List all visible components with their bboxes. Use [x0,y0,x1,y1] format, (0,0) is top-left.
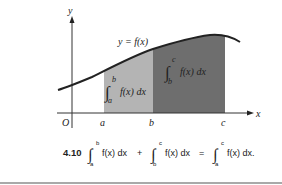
caption-term2-upper: c [159,140,162,146]
caption-term1-integrand: f(x) dx [102,148,128,158]
caption-plus: + [137,148,142,158]
tick-label-b: b [149,117,154,128]
tick-label-a: a [100,117,105,128]
caption-term3-lower: a [215,161,219,167]
x-axis-label: x [255,108,261,119]
curve-label: y = f(x) [117,36,149,48]
y-axis-label: y [67,5,73,16]
integrand-a-to-b: f(x) dx [120,86,146,98]
caption-term1-upper: b [96,140,100,146]
integral-additivity-figure: y x O a b c y = f(x) ∫ b a f(x) dx ∫ c b… [0,0,282,185]
integral-lower-a: a [108,96,112,105]
caption-term2-lower: b [153,161,157,167]
caption-equals: = [199,148,204,158]
caption-term2-integrand: f(x) dx [165,148,191,158]
origin-label: O [62,117,69,128]
integral-upper-c: c [172,55,176,64]
caption-term3-integrand: f(x) dx. [227,148,255,158]
y-axis-arrow-icon [70,16,75,23]
figure-caption: 4.10 ∫ b a f(x) dx + ∫ c b f(x) dx = ∫ c… [63,140,255,167]
figure-number: 4.10 [63,147,82,158]
caption-term1-lower: a [90,161,94,167]
page-divider [0,182,282,184]
integral-lower-b: b [168,77,172,86]
integral-upper-b: b [112,75,116,84]
integrand-b-to-c: f(x) dx [180,66,206,78]
tick-label-c: c [221,117,226,128]
x-axis-arrow-icon [247,111,254,116]
caption-term3-upper: c [221,140,224,146]
